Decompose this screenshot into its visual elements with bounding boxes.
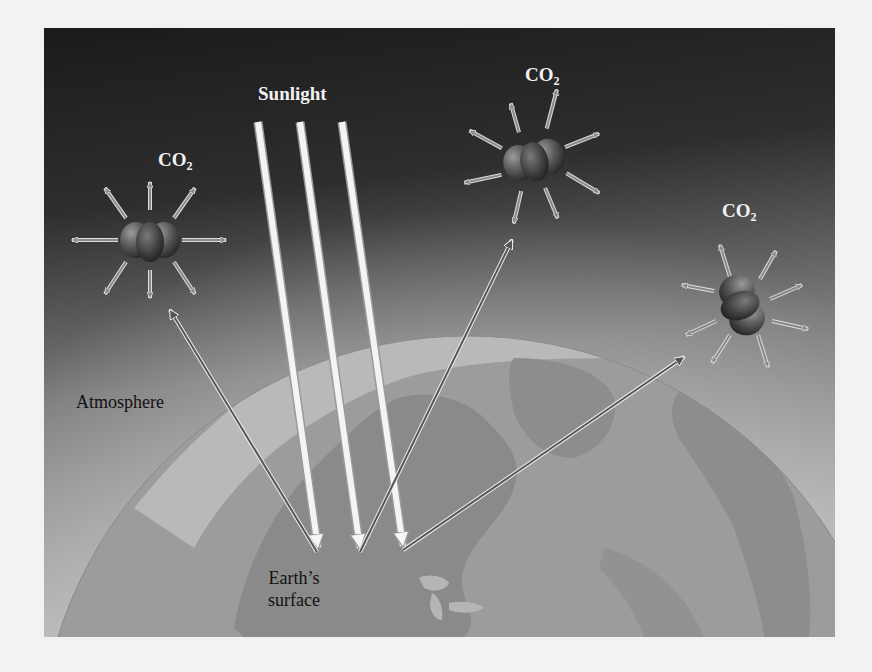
earth-surface-label-line1: Earth’s: [268, 569, 320, 587]
earth-surface-label-line2: surface: [268, 591, 320, 609]
co2-label-subscript: 2: [751, 210, 757, 224]
earth-surface-label: Earth’s surface: [268, 569, 320, 609]
co2-label-right: CO2: [722, 201, 757, 223]
sunlight-label: Sunlight: [258, 84, 327, 103]
diagram-canvas: [44, 28, 835, 637]
atmosphere-label: Atmosphere: [76, 393, 164, 411]
greenhouse-diagram: Sunlight CO2 CO2 CO2 Atmosphere Earth’s …: [44, 28, 835, 637]
co2-label-main: CO: [525, 64, 554, 85]
co2-label-top: CO2: [525, 65, 560, 87]
co2-label-main: CO: [722, 200, 751, 221]
co2-label-left: CO2: [158, 150, 193, 172]
co2-label-subscript: 2: [187, 159, 193, 173]
co2-label-subscript: 2: [554, 74, 560, 88]
co2-label-main: CO: [158, 149, 187, 170]
